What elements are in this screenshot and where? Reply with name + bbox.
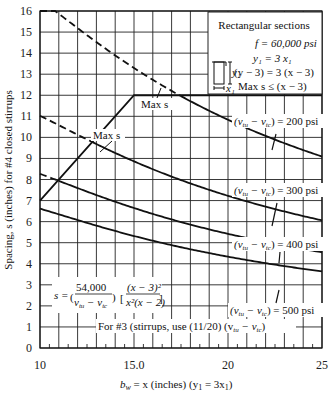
legend-y1: y₁ = 3 x₁ — [252, 52, 292, 64]
svg-text:): ) — [112, 291, 116, 304]
y-axis-ticks: 012345678910111213141516 — [20, 4, 32, 355]
svg-text:]: ] — [159, 292, 163, 304]
y-tick-0: 0 — [26, 341, 32, 355]
y-tick-7: 7 — [26, 194, 32, 208]
y-tick-2: 2 — [26, 299, 32, 313]
svg-text:s =: s = — [54, 289, 68, 301]
y-tick-10: 10 — [20, 130, 32, 144]
y-tick-15: 15 — [20, 25, 32, 39]
x-axis-label: bw = x (inches) (y1 = 3x1) — [120, 378, 233, 392]
y-axis-label: Spacing, s (inches) for #4 closed stirru… — [2, 90, 15, 269]
legend-title: Rectangular sections — [218, 19, 309, 31]
y-tick-12: 12 — [20, 88, 32, 102]
x-tick-15: 15.0 — [124, 358, 145, 372]
legend-box: Rectangular sections f = 60,000 psi y₁ =… — [208, 12, 322, 94]
max-s-arrow-2 — [157, 88, 161, 98]
y-tick-1: 1 — [26, 320, 32, 334]
svg-text:[: [ — [120, 292, 124, 304]
svg-text:(x − 3)²: (x − 3)² — [127, 281, 162, 294]
max-s-label-1: Max s — [93, 129, 120, 141]
y-tick-13: 13 — [20, 67, 32, 81]
curve-300-psi — [93, 142, 322, 220]
footer-note: For #3 (stirrups, use (11/20) (vtu − vtc… — [98, 320, 266, 334]
x-tick-20: 20 — [222, 358, 234, 372]
stirrup-spacing-chart: 012345678910111213141516 10 15.0 20 25 b… — [0, 0, 333, 412]
y-tick-8: 8 — [26, 173, 32, 187]
y-tick-9: 9 — [26, 151, 32, 165]
svg-text:54,000: 54,000 — [76, 281, 107, 293]
curve-300-dashed — [40, 116, 93, 142]
curve-labels: (vtu − vtc) = 200 psi (vtu − vtc) = 300 … — [228, 114, 324, 318]
max-s-label-2: Max s — [141, 98, 168, 110]
y-tick-16: 16 — [20, 4, 32, 18]
y-tick-14: 14 — [20, 46, 32, 60]
legend-max-s: Max s ≤ (x − 3) — [238, 80, 307, 93]
y-tick-6: 6 — [26, 215, 32, 229]
legend-fy: f = 60,000 psi — [255, 37, 317, 49]
formula-box: s = ( 54,000 vtu − vtc ) [ (x − 3)² x²(x… — [52, 277, 165, 313]
y-tick-5: 5 — [26, 236, 32, 250]
y-tick-11: 11 — [20, 109, 32, 123]
diagram-y1-label: y₁ — [231, 66, 241, 78]
x-tick-10: 10 — [34, 358, 46, 372]
legend-relation: (y − 3) = 3 (x − 3) — [234, 66, 314, 79]
y-tick-3: 3 — [26, 278, 32, 292]
y-tick-4: 4 — [26, 257, 32, 271]
x-tick-25: 25 — [316, 358, 328, 372]
diagram-x1-label: x₁ — [225, 82, 235, 94]
